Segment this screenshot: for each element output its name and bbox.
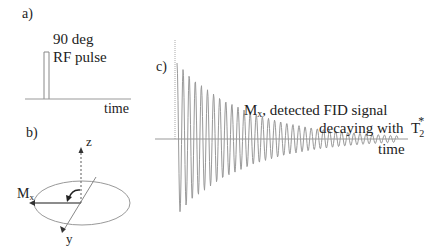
fid-signal [177, 63, 398, 212]
nmr-diagram: a) 90 deg RF pulse time b) z y Mx c) Mx,… [0, 0, 432, 248]
pulse-label-line2: RF pulse [53, 49, 107, 65]
z-arrowhead-icon [79, 147, 84, 153]
z-axis-label: z [86, 134, 92, 149]
rotation-arrowhead-icon [66, 195, 72, 202]
t2-star-label: T2* [411, 114, 424, 139]
mx-label: Mx [17, 186, 34, 202]
y-axis-label: y [66, 231, 73, 246]
rf-pulse [44, 52, 49, 99]
time-label-c: time [378, 141, 405, 157]
pulse-label-line1: 90 deg [53, 31, 94, 47]
panel-a-label: a) [22, 6, 33, 22]
panel-b-label: b) [26, 125, 38, 141]
fid-caption-line1: Mx, detected FID signal [244, 102, 387, 119]
panel-c-label: c) [156, 59, 167, 75]
time-label-a: time [104, 101, 129, 116]
fid-caption-line2: decaying with [319, 120, 404, 136]
